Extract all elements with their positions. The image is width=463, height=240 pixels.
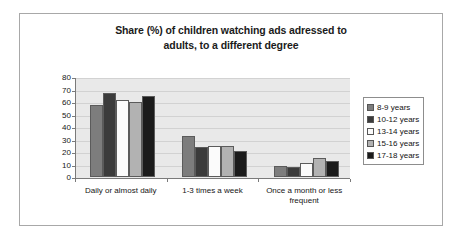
y-tick-label: 10 <box>62 162 71 170</box>
chart-title-line-1: Share (%) of children watching ads adres… <box>20 23 442 38</box>
legend-item[interactable]: 10-12 years <box>367 113 419 125</box>
bar[interactable] <box>300 163 313 177</box>
y-tick-label: 0 <box>67 174 71 182</box>
chart-legend: 8-9 years10-12 years13-14 years15-16 yea… <box>363 97 424 165</box>
x-tick-mark <box>350 179 351 182</box>
x-category-label: Once a month or less frequent <box>258 186 350 206</box>
y-tick-mark <box>72 128 75 129</box>
bar[interactable] <box>195 147 208 177</box>
bar[interactable] <box>116 100 129 178</box>
x-category-label: Daily or almost daily <box>75 186 167 196</box>
y-tick-label: 50 <box>62 112 71 120</box>
legend-item[interactable]: 17-18 years <box>367 149 419 161</box>
legend-label: 10-12 years <box>377 115 419 124</box>
chart-frame: Share (%) of children watching ads adres… <box>19 13 443 226</box>
y-tick-label: 30 <box>62 137 71 145</box>
legend-swatch-icon <box>367 116 374 123</box>
bar-group <box>260 78 352 177</box>
bar[interactable] <box>326 161 339 177</box>
y-tick-mark <box>72 91 75 92</box>
x-tick-mark <box>75 179 76 182</box>
x-tick-mark <box>258 179 259 182</box>
legend-label: 15-16 years <box>377 139 419 148</box>
bar[interactable] <box>182 136 195 177</box>
y-tick-mark <box>72 78 75 79</box>
bar[interactable] <box>274 166 287 177</box>
chart-title-line-2: adults, to a different degree <box>20 38 442 53</box>
bar[interactable] <box>90 105 103 178</box>
y-tick-mark <box>72 141 75 142</box>
chart-title: Share (%) of children watching ads adres… <box>20 23 442 53</box>
bar[interactable] <box>234 151 247 177</box>
bar[interactable] <box>287 167 300 177</box>
y-tick-mark <box>72 116 75 117</box>
legend-item[interactable]: 15-16 years <box>367 137 419 149</box>
legend-swatch-icon <box>367 104 374 111</box>
bar[interactable] <box>142 96 155 177</box>
x-tick-mark <box>167 179 168 182</box>
bar[interactable] <box>129 102 142 177</box>
bar-group <box>169 78 261 177</box>
legend-item[interactable]: 13-14 years <box>367 125 419 137</box>
legend-item[interactable]: 8-9 years <box>367 101 419 113</box>
bars-layer <box>77 78 350 177</box>
legend-label: 17-18 years <box>377 151 419 160</box>
bar[interactable] <box>221 146 234 177</box>
bar[interactable] <box>103 93 116 177</box>
y-tick-label: 60 <box>62 99 71 107</box>
legend-swatch-icon <box>367 128 374 135</box>
y-tick-mark <box>72 153 75 154</box>
legend-label: 13-14 years <box>377 127 419 136</box>
y-tick-label: 20 <box>62 149 71 157</box>
bar[interactable] <box>208 146 221 177</box>
x-category-label: 1-3 times a week <box>167 186 259 196</box>
y-tick-label: 70 <box>62 87 71 95</box>
legend-swatch-icon <box>367 140 374 147</box>
plot-region: 01020304050607080 Daily or almost daily1… <box>75 78 350 179</box>
bar[interactable] <box>313 158 326 177</box>
bar-group <box>77 78 169 177</box>
y-tick-label: 80 <box>62 74 71 82</box>
legend-swatch-icon <box>367 152 374 159</box>
plot-area <box>75 78 350 179</box>
legend-label: 8-9 years <box>377 103 410 112</box>
y-tick-mark <box>72 103 75 104</box>
y-tick-mark <box>72 166 75 167</box>
y-tick-label: 40 <box>62 124 71 132</box>
